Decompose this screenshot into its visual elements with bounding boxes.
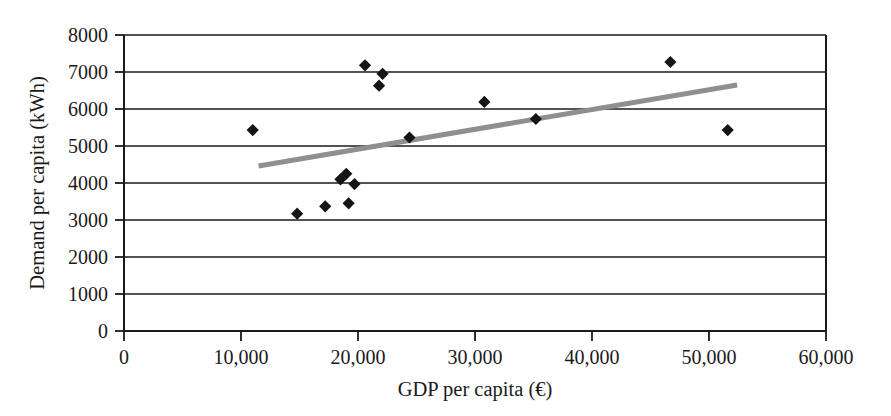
x-tick-label-50000: 50,000 xyxy=(682,346,737,368)
y-tick-label-5000: 5000 xyxy=(68,135,108,157)
scatter-chart-figure: 8000 7000 6000 5000 4000 3000 2000 1000 … xyxy=(0,0,891,416)
y-tick-label-8000: 8000 xyxy=(68,24,108,46)
x-tick-label-0: 0 xyxy=(119,346,129,368)
y-tick-label-7000: 7000 xyxy=(68,61,108,83)
x-tick-label-60000: 60,000 xyxy=(799,346,854,368)
x-tick-label-40000: 40,000 xyxy=(565,346,620,368)
y-tick-label-4000: 4000 xyxy=(68,172,108,194)
y-tick-label-0: 0 xyxy=(98,320,108,342)
y-tick-label-1000: 1000 xyxy=(68,283,108,305)
y-axis-tick-labels: 8000 7000 6000 5000 4000 3000 2000 1000 … xyxy=(68,24,108,342)
chart-background xyxy=(0,0,891,416)
y-tick-label-2000: 2000 xyxy=(68,246,108,268)
y-tick-label-6000: 6000 xyxy=(68,98,108,120)
x-tick-label-20000: 20,000 xyxy=(331,346,386,368)
x-axis-title: GDP per capita (€) xyxy=(398,378,553,401)
y-tick-label-3000: 3000 xyxy=(68,209,108,231)
chart-canvas: 8000 7000 6000 5000 4000 3000 2000 1000 … xyxy=(0,0,891,416)
x-tick-label-10000: 10,000 xyxy=(214,346,269,368)
x-tick-label-30000: 30,000 xyxy=(448,346,503,368)
y-axis-title: Demand per capita (kWh) xyxy=(26,76,49,289)
